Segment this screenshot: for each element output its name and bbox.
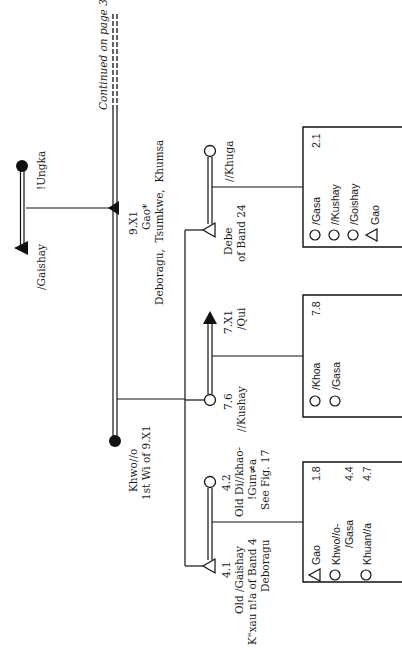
open-circle-icon: [330, 396, 340, 406]
children-box-2: 7.8 /Khoa /Gasa: [303, 295, 402, 417]
open-triangle-icon: [366, 229, 377, 241]
child-name: Gao: [369, 205, 381, 225]
box-corner-value: 7.8: [310, 301, 322, 316]
filled-triangle-icon: [203, 311, 217, 324]
person-label-khwoo: Khwo//o: [127, 449, 139, 492]
child-value: 4.7: [361, 466, 373, 481]
generation-1-couple: !Ungka /Gaishay: [14, 151, 113, 290]
person-label-gaishay: /Gaishay: [35, 244, 47, 290]
open-triangle-icon: [309, 569, 320, 581]
person-place-deboragu: Deboragu: [259, 539, 271, 592]
child-name: Khuan//a: [361, 523, 373, 565]
person-id-42: 4.2: [220, 474, 232, 491]
child-name: Gao: [310, 545, 322, 565]
children-box-1: 2.1 /Gasa //Kushay /Goishay Gao: [303, 127, 402, 247]
person-note-1st-wife: 1st Wi of 9.X1: [140, 425, 152, 500]
person-id-41: 4.1: [220, 561, 232, 578]
person-label-old-dikhao: Old Di//khao-: [233, 446, 245, 517]
child-name: /Goishay: [348, 183, 360, 225]
child-name: /Khoa: [310, 362, 322, 390]
continuation-note: Continued on page 309: [97, 0, 109, 110]
generation-2-couple: 9.X1 Gao* Deboragu, Tsumkwe, Khumsa Khwo…: [108, 110, 185, 566]
open-circle-icon: [310, 230, 320, 240]
person-note-band24: of Band 24: [235, 204, 247, 262]
continuation-marker: Continued on page 309: [97, 0, 117, 110]
person-id-76: 7.6: [222, 393, 234, 410]
box-corner-value: 2.1: [310, 133, 322, 148]
child-name-cont: /Gasa: [343, 520, 355, 548]
child-value: 1.8: [310, 466, 322, 481]
person-label-old-gaishay: Old /Gaishay: [233, 546, 245, 614]
child-name: //Kushay: [329, 183, 341, 225]
children-box-3: Gao 1.8 Khwo//o- /Gasa 4.4 Khuan//a 4.7: [303, 462, 402, 582]
child-name: Khwo//o-: [330, 523, 342, 565]
couple-old-gaishay: 4.1 Old /Gaishay K"xau n!a of Band 4 Deb…: [185, 446, 303, 645]
kinship-diagram: Continued on page 309 !Ungka /Gaishay 9.…: [0, 0, 402, 650]
open-circle-icon: [205, 146, 216, 157]
open-circle-icon: [310, 396, 320, 406]
couple-kushay: 7.X1 /Qui 7.6 //Kushay: [185, 307, 303, 432]
person-label-ungka: !Ungka: [35, 151, 47, 190]
open-triangle-icon: [203, 223, 215, 237]
filled-circle-icon: [109, 435, 121, 447]
person-label-qui: /Qui: [235, 307, 247, 330]
person-label-debe: Debe: [222, 227, 234, 255]
open-circle-icon: [329, 230, 339, 240]
person-note-kxau-band4: K"xau n!a of Band 4: [246, 538, 258, 645]
open-circle-icon: [330, 570, 340, 580]
open-circle-icon: [205, 477, 216, 488]
open-circle-icon: [348, 230, 358, 240]
person-label-khuga: //Khuga: [223, 141, 235, 182]
person-label-kushay: //Kushay: [235, 386, 247, 432]
person-label-gun: !Gun≠a: [246, 459, 258, 500]
person-id-7x1: 7.X1: [222, 310, 234, 334]
child-value: 4.4: [343, 466, 355, 481]
open-triangle-icon: [203, 559, 215, 573]
filled-circle-icon: [16, 160, 28, 172]
person-id-9x1: 9.X1: [127, 211, 139, 235]
person-label-gao: Gao*: [140, 203, 152, 230]
person-note-see-fig17: See Fig. 17: [259, 450, 271, 510]
open-circle-icon: [361, 570, 371, 580]
child-name: /Gasa: [330, 362, 342, 390]
person-places: Deboragu, Tsumkwe, Khumsa: [153, 140, 165, 305]
couple-debe: //Khuga Debe of Band 24: [185, 141, 303, 262]
child-name: /Gasa: [310, 197, 322, 225]
open-circle-icon: [205, 395, 216, 406]
